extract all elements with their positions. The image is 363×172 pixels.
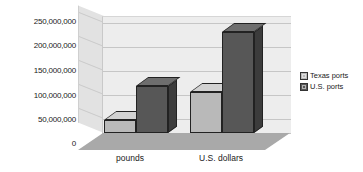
- chart-legend: Texas ports U.S. ports: [300, 72, 348, 94]
- y-tick-label: 0: [72, 140, 76, 148]
- legend-item-texas-ports[interactable]: Texas ports: [300, 72, 348, 80]
- plot-area: [78, 16, 290, 150]
- legend-label: Texas ports: [310, 72, 348, 80]
- bar-side: [168, 79, 177, 133]
- axis-side-wall: [78, 5, 104, 133]
- y-axis: 250,000,000 200,000,000 150,000,000 100,…: [4, 0, 76, 172]
- bar-us-ports-dollars[interactable]: [222, 32, 254, 133]
- bar-side: [254, 25, 263, 133]
- bar-face: [190, 92, 222, 133]
- legend-item-us-ports[interactable]: U.S. ports: [300, 83, 348, 91]
- plot-floor: [78, 133, 290, 150]
- bar-texas-ports-dollars[interactable]: [190, 92, 222, 133]
- x-tick-label-pounds: pounds: [95, 153, 165, 163]
- bar-face: [136, 86, 168, 133]
- y-tick-label: 100,000,000: [34, 92, 76, 100]
- bar-face: [222, 32, 254, 133]
- y-tick-label: 50,000,000: [38, 116, 76, 124]
- x-tick-label-dollars: U.S. dollars: [181, 153, 261, 163]
- legend-swatch-icon: [300, 83, 308, 91]
- bar-texas-ports-pounds[interactable]: [104, 120, 136, 133]
- bar-face: [104, 120, 136, 133]
- chart-container: 250,000,000 200,000,000 150,000,000 100,…: [0, 0, 363, 172]
- y-tick-label: 250,000,000: [34, 18, 76, 26]
- legend-swatch-icon: [300, 72, 308, 80]
- y-tick-label: 150,000,000: [34, 67, 76, 75]
- y-tick-label: 200,000,000: [34, 42, 76, 50]
- legend-label: U.S. ports: [310, 83, 343, 91]
- bar-us-ports-pounds[interactable]: [136, 86, 168, 133]
